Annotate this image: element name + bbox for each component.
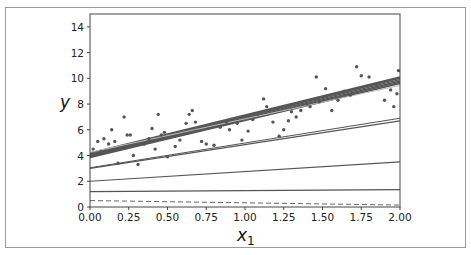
y-tick-label: 6 [77, 124, 84, 136]
scatter-point [375, 84, 378, 87]
scatter-point [265, 105, 268, 108]
scatter-point [330, 109, 333, 112]
scatter-point [113, 140, 116, 143]
y-tick-label: 0 [77, 201, 84, 213]
scatter-point [153, 147, 156, 150]
chart-canvas: 0.000.250.500.751.001.251.501.752.000246… [0, 0, 471, 255]
x-tick-label: 2.00 [388, 211, 411, 223]
scatter-point [349, 93, 352, 96]
scatter-point [236, 122, 239, 125]
scatter-point [184, 122, 187, 125]
scatter-point [200, 140, 203, 143]
scatter-point [383, 99, 386, 102]
scatter-point [126, 133, 129, 136]
scatter-point [212, 144, 215, 147]
scatter-point [129, 133, 132, 136]
scatter-point [132, 154, 135, 157]
y-tick-label: 14 [71, 21, 85, 33]
scatter-point [277, 135, 280, 138]
scatter-point [194, 120, 197, 123]
x-tick-label: 0.75 [195, 211, 218, 223]
x-tick-label: 1.50 [311, 211, 334, 223]
scatter-point [99, 150, 102, 153]
scatter-point [102, 137, 105, 140]
scatter-point [91, 147, 94, 150]
scatter-point [166, 155, 169, 158]
scatter-point [143, 142, 146, 145]
scatter-point [343, 90, 346, 93]
scatter-point [355, 65, 358, 68]
y-tick-label: 2 [77, 175, 84, 187]
scatter-point [294, 115, 297, 118]
series-line [90, 77, 400, 153]
x-axis-label-subscript: 1 [247, 234, 255, 248]
x-tick-label: 0.50 [156, 211, 179, 223]
y-tick-label: 8 [77, 98, 84, 110]
scatter-point [107, 142, 110, 145]
scatter-point [305, 102, 308, 105]
scatter-point [225, 120, 228, 123]
scatter-point [324, 87, 327, 90]
scatter-point [163, 131, 166, 134]
scatter-point [392, 105, 395, 108]
scatter-point [191, 109, 194, 112]
scatter-point [308, 105, 311, 108]
scatter-point [287, 119, 290, 122]
y-tick-label: 10 [71, 72, 84, 84]
series-line [90, 190, 400, 192]
y-axis-label: y [59, 92, 71, 112]
scatter-point [219, 126, 222, 129]
scatter-point [251, 118, 254, 121]
series-line [90, 201, 400, 206]
scatter-point [228, 128, 231, 131]
series-line [90, 82, 400, 157]
scatter-point [188, 113, 191, 116]
scatter-point [395, 92, 398, 95]
scatter-point [160, 133, 163, 136]
scatter-point [116, 162, 119, 165]
scatter-point [367, 75, 370, 78]
x-tick-label: 1.25 [272, 211, 295, 223]
scatter-point [136, 163, 139, 166]
scatter-point [299, 109, 302, 112]
y-tick-label: 4 [77, 150, 84, 162]
scatter-point [336, 99, 339, 102]
scatter-point [174, 145, 177, 148]
y-tick-label: 12 [71, 47, 84, 59]
scatter-point [147, 137, 150, 140]
scatter-point [122, 115, 125, 118]
scatter-point [318, 100, 321, 103]
plot-area [90, 65, 400, 205]
scatter-point [240, 138, 243, 141]
x-tick-label: 0.25 [117, 211, 140, 223]
x-axis-label: x1 [236, 225, 255, 248]
scatter-point [290, 110, 293, 113]
scatter-point [262, 97, 265, 100]
scatter-point [178, 138, 181, 141]
scatter-point [246, 129, 249, 132]
x-tick-label: 1.00 [233, 211, 256, 223]
scatter-point [256, 113, 259, 116]
scatter-point [96, 140, 99, 143]
scatter-point [205, 142, 208, 145]
scatter-point [315, 75, 318, 78]
scatter-point [110, 128, 113, 131]
scatter-point [389, 88, 392, 91]
series-line [90, 83, 400, 157]
scatter-point [150, 127, 153, 130]
series-line [90, 85, 400, 152]
scatter-point [271, 120, 274, 123]
scatter-point [157, 113, 160, 116]
scatter-point [360, 74, 363, 77]
x-tick-label: 1.75 [350, 211, 373, 223]
scatter-point [282, 128, 285, 131]
